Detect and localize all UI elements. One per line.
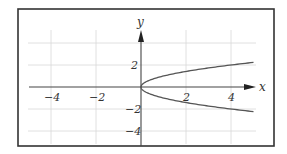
x-axis-label: x [259, 80, 266, 94]
x-tick-label: −2 [89, 91, 105, 104]
curve-upper-branch [141, 62, 254, 87]
x-axis-arrow-icon [244, 84, 256, 90]
curve-lower-branch [141, 87, 254, 112]
graph-figure: x y −4 −2 2 4 2 −2 −4 [0, 0, 287, 154]
x-tick-label: −4 [44, 91, 60, 104]
figure-frame [18, 9, 274, 146]
y-tick-label: 2 [130, 59, 138, 72]
y-axis-arrow-icon [138, 30, 144, 42]
y-tick-label: −4 [125, 125, 141, 138]
x-tick-label: 4 [227, 91, 235, 104]
y-axis-label: y [136, 15, 144, 29]
y-tick-label: −2 [125, 103, 141, 116]
